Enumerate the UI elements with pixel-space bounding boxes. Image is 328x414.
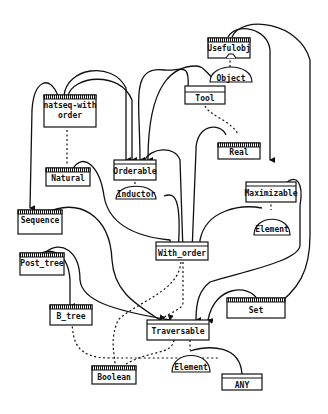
node-label: Real [229,148,248,157]
edge-usefulobj-set [232,24,310,310]
node-label: Object [217,73,246,83]
client-traversable-boolean [126,340,174,364]
class-diagram: Usefulobj Object Tool Real natseq-with o… [0,0,328,414]
node-maximizable[interactable]: Maximizable [245,182,298,202]
edge-with_order-traversable [113,262,181,364]
node-traversable[interactable]: Traversable [147,320,209,340]
node-label: Usefulobj [207,43,250,53]
node-label: Sequence [21,216,60,225]
node-label: ANY [235,381,250,390]
node-label: Element [255,225,289,234]
node-object[interactable]: Object [210,67,252,83]
node-b-tree[interactable]: B_tree [50,305,92,325]
node-real[interactable]: Real [218,143,260,159]
edge-tool-orderable [139,69,189,160]
node-label: Boolean [97,373,131,382]
node-boolean[interactable]: Boolean [92,366,136,384]
node-post-tree[interactable]: Post_tree [20,253,64,275]
node-label: Post_tree [20,259,64,268]
node-label: B_tree [57,312,86,321]
node-natural[interactable]: Natural [46,168,90,186]
node-label: With_order [158,248,206,258]
edge-object-orderable [148,66,215,160]
node-element-2[interactable]: Element [172,356,210,373]
node-label: Traversable [152,327,205,336]
node-natseq-with-order[interactable]: natseq-with order [44,95,97,127]
node-with-order[interactable]: With_order [156,242,208,260]
node-label: Set [249,306,264,315]
node-label: Tool [195,94,214,103]
node-label-line2: order [58,111,82,120]
node-label: Maximizable [245,188,298,198]
node-set[interactable]: Set [227,298,285,318]
node-label: Inductor [117,190,156,199]
node-tool[interactable]: Tool [185,86,225,104]
node-label: Orderable [113,167,157,176]
node-sequence[interactable]: Sequence [18,210,62,234]
node-element-1[interactable]: Element [254,219,290,235]
node-inductor[interactable]: Inductor [116,186,156,199]
edge-with_order-traversable-2 [160,262,183,320]
node-label: Natural [51,174,85,183]
node-label-line1: natseq-with [44,100,97,110]
node-label: Element [174,363,208,372]
node-orderable[interactable]: Orderable [113,160,157,180]
node-any[interactable]: ANY [222,374,262,390]
node-usefulobj[interactable]: Usefulobj [207,38,250,58]
edge-element-with_order [200,207,262,252]
